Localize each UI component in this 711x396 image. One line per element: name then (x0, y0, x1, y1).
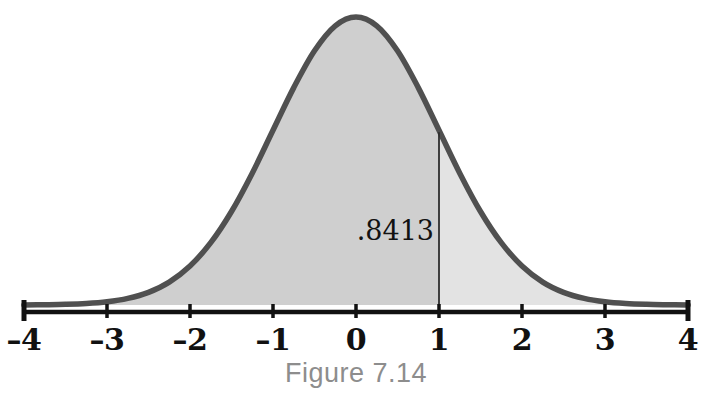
figure-container: –4–3–2–101234 .8413 Figure 7.14 (0, 0, 711, 396)
normal-distribution-chart: –4–3–2–101234 .8413 Figure 7.14 (0, 0, 711, 396)
x-axis-tick-label: –2 (173, 322, 208, 357)
x-axis-tick-label: 1 (429, 322, 449, 357)
figure-caption: Figure 7.14 (285, 358, 427, 388)
x-axis-tick-labels: –4–3–2–101234 (7, 322, 699, 357)
x-axis-tick-label: –3 (90, 322, 125, 357)
x-axis-tick-label: 4 (678, 322, 698, 357)
x-axis-tick-label: 3 (595, 322, 615, 357)
area-value-label: .8413 (357, 215, 434, 246)
x-axis-tick-label: –1 (256, 322, 291, 357)
x-axis-tick-label: 0 (346, 322, 366, 357)
x-axis-tick-label: –4 (7, 322, 42, 357)
x-axis-tick-label: 2 (512, 322, 532, 357)
